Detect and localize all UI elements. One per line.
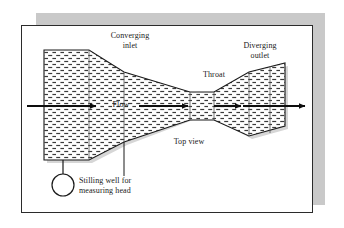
label-converging-inlet: Converging inlet bbox=[88, 31, 172, 51]
label-stilling-well: Stilling well for measuring head bbox=[79, 176, 171, 196]
label-throat: Throat bbox=[180, 70, 248, 80]
label-flow: Flow bbox=[104, 100, 138, 110]
figure-screenshot: Converging inlet Diverging outlet Throat… bbox=[0, 0, 344, 228]
venturi-flume-diagram bbox=[0, 0, 344, 228]
label-diverging-outlet: Diverging outlet bbox=[218, 41, 302, 61]
label-top-view: Top view bbox=[152, 137, 226, 147]
stilling-well-icon bbox=[52, 160, 74, 196]
